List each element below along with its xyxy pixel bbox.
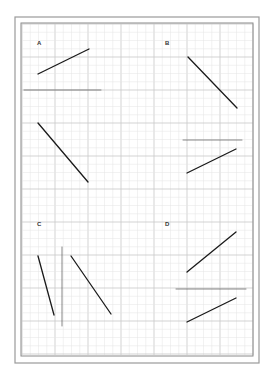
grid-figure: A B C D bbox=[0, 0, 271, 373]
page-background bbox=[0, 0, 271, 373]
panel-label-a: A bbox=[37, 40, 42, 46]
panel-label-d: D bbox=[165, 221, 170, 227]
panel-label-c: C bbox=[37, 221, 42, 227]
panel-label-b: B bbox=[165, 40, 170, 46]
